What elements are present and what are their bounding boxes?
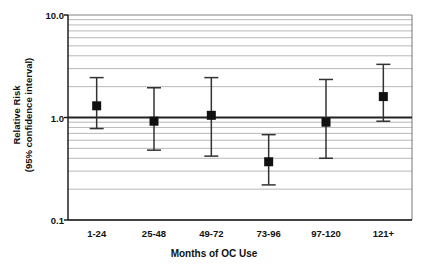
data-point-group [376, 64, 390, 121]
forest-plot-figure: Relative Risk (95% confidence interval) … [0, 0, 428, 270]
point-marker [379, 92, 388, 101]
data-point-group [147, 88, 161, 150]
point-marker [150, 117, 159, 126]
point-marker [92, 101, 101, 110]
x-tick-label-97-120: 97-120 [311, 228, 341, 239]
point-marker [322, 118, 331, 127]
point-marker [207, 111, 216, 120]
data-point-group [90, 78, 104, 129]
x-tick-label-73-96: 73-96 [257, 228, 281, 239]
x-tick-label-1-24: 1-24 [87, 228, 106, 239]
x-axis-title: Months of OC Use [0, 248, 428, 259]
x-tick-label-49-72: 49-72 [199, 228, 223, 239]
x-tick-label-121+: 121+ [373, 228, 394, 239]
data-point-group [262, 135, 276, 185]
point-marker [264, 157, 273, 166]
x-tick-label-25-48: 25-48 [142, 228, 166, 239]
data-point-group [319, 79, 333, 158]
